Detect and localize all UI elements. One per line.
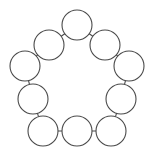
nodes-layer	[10, 10, 144, 146]
graph-node-n10[interactable]	[34, 30, 64, 60]
graph-edge	[89, 34, 93, 37]
graph-edge	[29, 81, 30, 85]
graph-edge	[125, 81, 126, 85]
graph-node-n2[interactable]	[90, 30, 120, 60]
graph-node-n7[interactable]	[28, 116, 58, 146]
graph-node-n6[interactable]	[62, 116, 92, 146]
cycle-graph-diagram	[0, 0, 153, 152]
diagram-canvas	[0, 0, 153, 152]
graph-node-n8[interactable]	[18, 84, 48, 114]
graph-node-n3[interactable]	[114, 51, 144, 81]
graph-node-n9[interactable]	[10, 51, 40, 81]
graph-node-n4[interactable]	[106, 84, 136, 114]
graph-edge	[61, 34, 65, 37]
graph-node-n5[interactable]	[96, 116, 126, 146]
graph-node-n1[interactable]	[62, 10, 92, 40]
